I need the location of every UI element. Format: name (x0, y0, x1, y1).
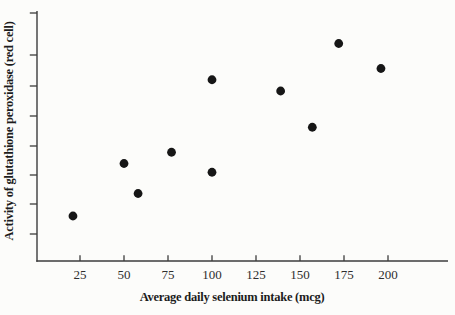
data-point (167, 148, 176, 157)
data-point (276, 87, 285, 96)
data-point (377, 64, 386, 73)
scatter-figure: 255075100125150175200 Average daily sele… (0, 0, 455, 315)
x-tick-label: 75 (162, 267, 175, 282)
x-tick-label: 50 (118, 267, 131, 282)
data-points (69, 39, 386, 220)
data-point (334, 39, 343, 48)
y-axis-title: Activity of glutathione peroxidase (red … (2, 21, 16, 240)
data-point (208, 75, 217, 84)
data-point (134, 189, 143, 198)
scatter-plot-svg: 255075100125150175200 Average daily sele… (0, 0, 455, 315)
data-point (120, 159, 129, 168)
x-tick-label: 150 (290, 267, 310, 282)
x-axis-title: Average daily selenium intake (mcg) (140, 290, 325, 304)
x-axis-ticks (80, 255, 388, 261)
x-tick-label: 175 (334, 267, 354, 282)
x-tick-label: 125 (246, 267, 266, 282)
data-point (308, 123, 317, 132)
data-point (69, 212, 78, 221)
x-tick-label: 100 (202, 267, 222, 282)
y-axis-ticks (30, 13, 37, 234)
x-tick-label: 200 (378, 267, 398, 282)
data-point (208, 168, 217, 177)
x-axis-tick-labels: 255075100125150175200 (74, 267, 398, 282)
x-tick-label: 25 (74, 267, 87, 282)
